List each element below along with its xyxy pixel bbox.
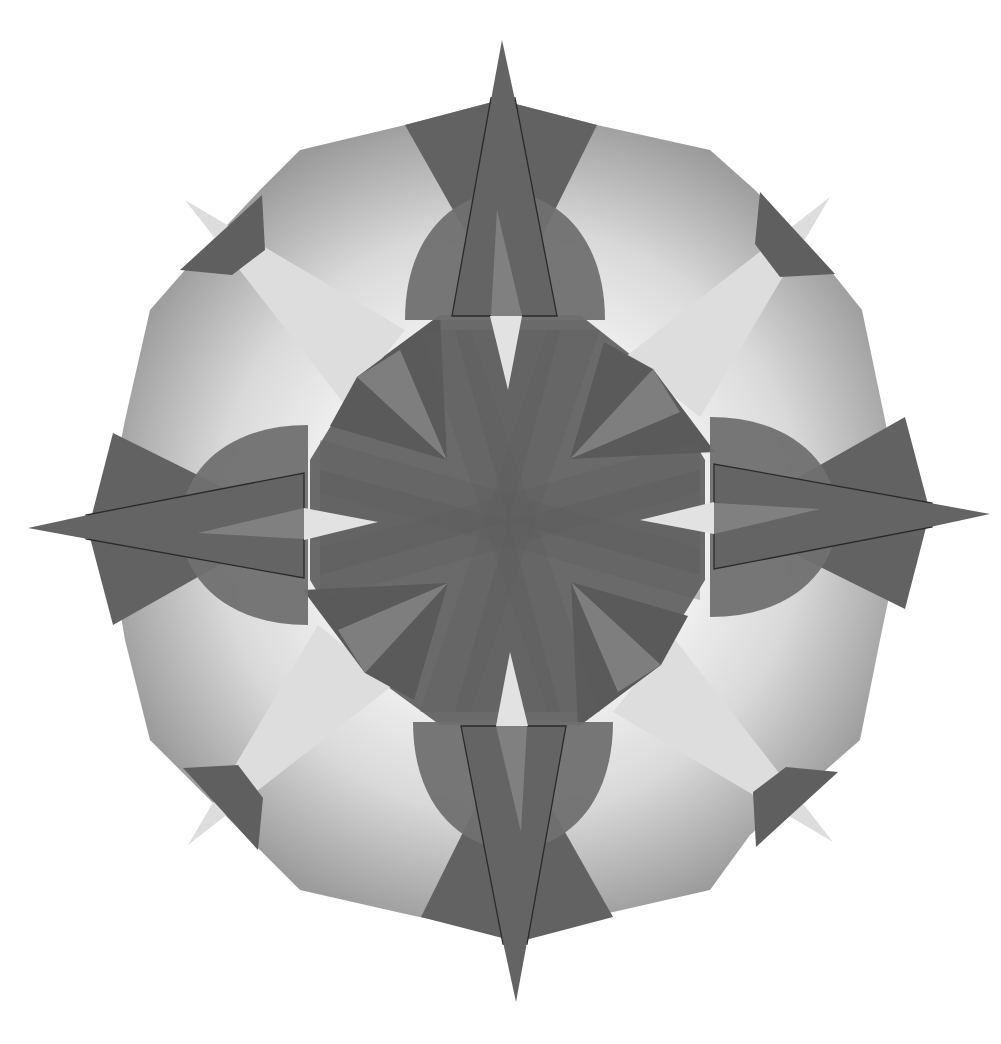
mandala-artwork bbox=[0, 0, 1001, 1044]
